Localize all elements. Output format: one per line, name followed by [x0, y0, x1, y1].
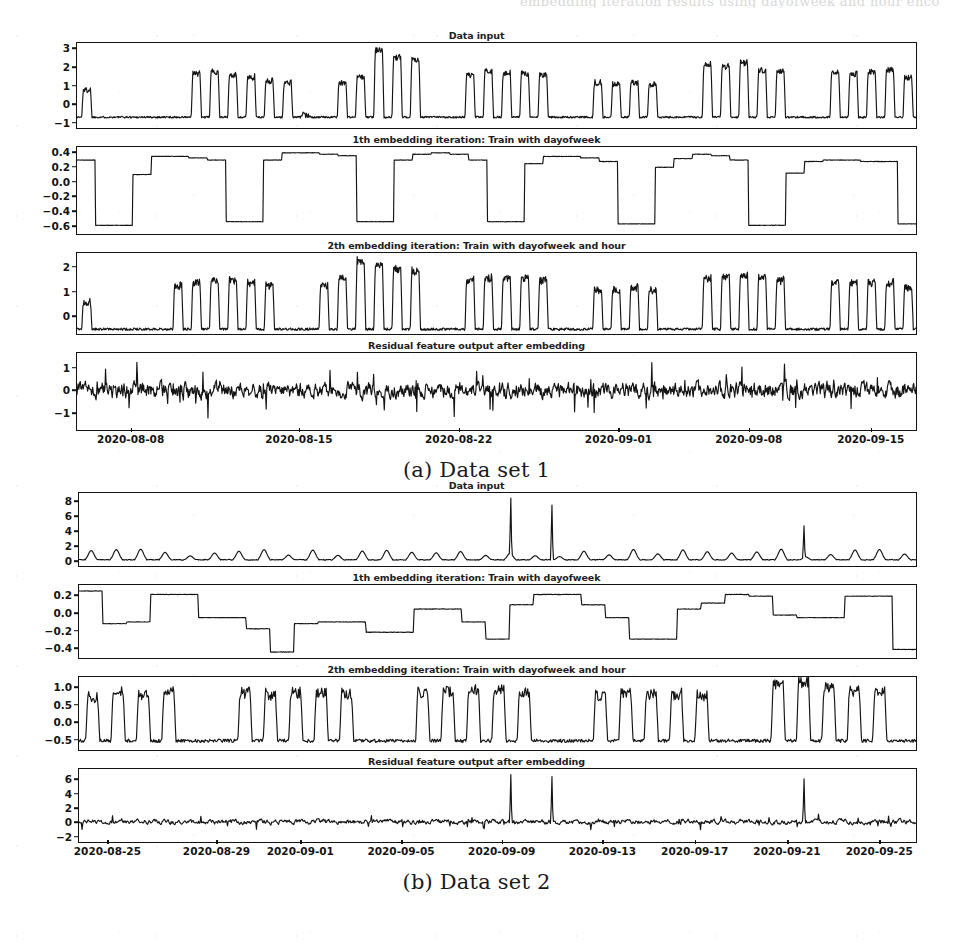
y-axis-tick-label: 1 — [63, 286, 70, 298]
y-axis-tick-mark — [72, 181, 76, 183]
y-axis-tick-label: 0 — [63, 384, 70, 396]
x-axis-tick-mark — [787, 840, 789, 844]
y-axis-tick-label: 2 — [63, 61, 70, 73]
y-axis-tick-mark — [72, 225, 76, 227]
y-axis-tick-label: 0.0 — [51, 176, 70, 188]
y-axis-tick-label: 6 — [65, 510, 72, 522]
y-axis-tick-label: 0 — [63, 310, 70, 322]
panel-title: 2th embedding iteration: Train with dayo… — [0, 240, 953, 251]
y-axis-tick-label: 0.2 — [53, 589, 72, 601]
x-axis-tick-mark — [695, 840, 697, 844]
y-axis-tick-mark — [72, 390, 76, 392]
x-axis-tick-label: 2020-09-13 — [569, 845, 636, 857]
y-axis-tick-mark — [72, 166, 76, 168]
x-axis-tick-mark — [299, 428, 301, 432]
y-axis-tick-mark — [74, 686, 78, 688]
y-axis-tick-label: −2 — [56, 831, 72, 843]
panel-title: 1th embedding iteration: Train with dayo… — [0, 134, 953, 145]
y-axis-tick-label: 0.2 — [51, 161, 70, 173]
y-axis-tick-mark — [74, 704, 78, 706]
panel-3: 2th embedding iteration: Train with dayo… — [0, 240, 953, 336]
x-axis-tick-label: 2020-09-05 — [367, 845, 434, 857]
x-axis-tick-label: 2020-09-21 — [753, 845, 820, 857]
x-axis-tick-mark — [401, 840, 403, 844]
x-axis-tick-label: 2020-08-29 — [183, 845, 250, 857]
y-axis-tick-mark — [74, 807, 78, 809]
y-axis-tick-mark — [74, 821, 78, 823]
x-axis-tick-mark — [107, 840, 109, 844]
y-axis-tick-label: 3 — [63, 42, 70, 54]
y-axis-tick-mark — [74, 779, 78, 781]
y-axis-tick-label: −1 — [54, 407, 70, 419]
y-axis-tick-mark — [72, 48, 76, 50]
x-axis-tick-label: 2020-09-17 — [661, 845, 728, 857]
y-axis-tick-mark — [72, 316, 76, 318]
y-axis-tick-mark — [74, 793, 78, 795]
y-axis-tick-label: 0.5 — [53, 699, 72, 711]
panel-title: Data input — [0, 480, 953, 491]
x-axis-tick-mark — [459, 428, 461, 432]
x-axis-tick-label: 2020-08-15 — [265, 433, 332, 445]
y-axis-tick-label: 4 — [65, 525, 72, 537]
x-axis-tick-mark — [300, 840, 302, 844]
y-axis-tick-mark — [74, 612, 78, 614]
x-axis-tick-label: 2020-08-22 — [425, 433, 492, 445]
figure-caption: (a) Data set 1 — [0, 458, 953, 482]
y-axis-tick-label: 1.0 — [53, 681, 72, 693]
y-axis-tick-label: 6 — [65, 773, 72, 785]
x-axis-tick-mark — [602, 840, 604, 844]
y-axis-tick-mark — [72, 367, 76, 369]
y-axis-tick-label: −0.6 — [43, 220, 70, 232]
x-axis: 2020-08-082020-08-152020-08-222020-09-01… — [0, 432, 953, 450]
x-axis-tick-label: 2020-08-25 — [74, 845, 141, 857]
y-axis-tick-mark — [72, 196, 76, 198]
y-axis-tick-label: 0.0 — [53, 607, 72, 619]
plot-area — [76, 252, 917, 335]
panel-1: Data input3210−1 — [0, 30, 953, 130]
panel-title: 2th embedding iteration: Train with dayo… — [0, 664, 953, 675]
y-axis-tick-mark — [74, 721, 78, 723]
x-axis-tick-mark — [749, 428, 751, 432]
y-axis-tick-mark — [72, 291, 76, 293]
y-axis-tick-mark — [72, 412, 76, 414]
y-axis-tick-mark — [74, 630, 78, 632]
y-axis-tick-label: 0 — [63, 98, 70, 110]
x-axis-tick-mark — [131, 428, 133, 432]
panel-2: 1th embedding iteration: Train with dayo… — [0, 134, 953, 236]
figure-b: Data input864201th embedding iteration: … — [0, 480, 953, 904]
y-axis-tick-label: −0.5 — [45, 734, 72, 746]
x-axis-tick-label: 2020-08-08 — [97, 433, 164, 445]
y-axis-tick-label: −1 — [54, 117, 70, 129]
y-axis-tick-mark — [74, 739, 78, 741]
y-axis-tick-label: 2 — [63, 261, 70, 273]
y-axis-tick-mark — [74, 836, 78, 838]
x-axis-tick-label: 2020-09-09 — [468, 845, 535, 857]
y-axis-tick-mark — [72, 151, 76, 153]
figure-a: Data input3210−11th embedding iteration:… — [0, 30, 953, 492]
plot-area — [76, 42, 917, 129]
x-axis: 2020-08-252020-08-292020-09-012020-09-05… — [0, 844, 953, 862]
y-axis-tick-mark — [74, 515, 78, 517]
panel-4: Residual feature output after embedding6… — [0, 756, 953, 844]
panel-4: Residual feature output after embedding1… — [0, 340, 953, 432]
y-axis-tick-label: 8 — [65, 495, 72, 507]
x-axis-tick-mark — [871, 428, 873, 432]
y-axis-tick-mark — [72, 103, 76, 105]
panel-title: 1th embedding iteration: Train with dayo… — [0, 572, 953, 583]
y-axis-tick-label: 0.4 — [51, 146, 70, 158]
y-axis-tick-mark — [72, 266, 76, 268]
panel-title: Residual feature output after embedding — [0, 756, 953, 767]
paper-page: embedding iteration results using dayofw… — [0, 0, 953, 944]
y-axis-tick-label: 0 — [65, 555, 72, 567]
y-axis-tick-mark — [74, 530, 78, 532]
y-axis-tick-label: −0.4 — [43, 205, 70, 217]
cut-off-header-text: embedding iteration results using dayofw… — [520, 0, 940, 8]
y-axis-tick-mark — [74, 545, 78, 547]
plot-area — [78, 768, 917, 843]
x-axis-tick-mark — [216, 840, 218, 844]
y-axis-tick-mark — [72, 122, 76, 124]
y-axis-tick-label: 0 — [65, 816, 72, 828]
x-axis-tick-mark — [502, 840, 504, 844]
x-axis-tick-label: 2020-09-15 — [837, 433, 904, 445]
y-axis-tick-mark — [72, 85, 76, 87]
